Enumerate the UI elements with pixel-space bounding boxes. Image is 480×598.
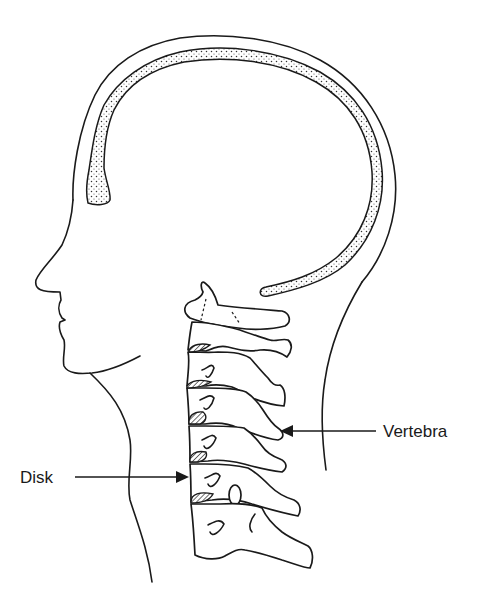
neck-back-line [322,282,362,470]
vertebra-arrow [280,425,376,437]
diagram-svg [0,0,480,598]
disk-label: Disk [20,469,53,486]
head-spine-diagram: Vertebra Disk [0,0,480,598]
head-outline [73,36,396,282]
vertebra-label: Vertebra [383,423,447,440]
disk-arrow-head-icon [176,471,189,483]
cervical-spine [185,282,313,568]
face-profile [36,200,140,373]
c6-tubercle [229,485,241,505]
disk-arrow [75,471,189,483]
dotted-brain-covering [87,48,383,296]
